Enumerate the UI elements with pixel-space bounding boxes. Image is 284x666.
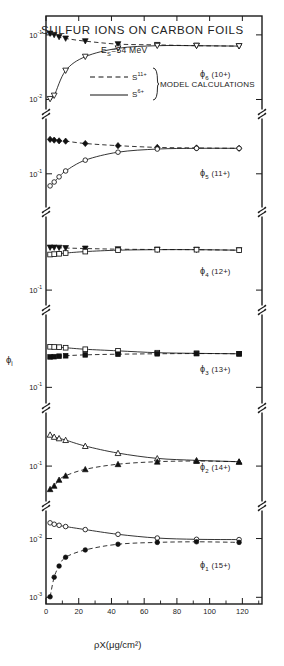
model-curve-solid (50, 523, 239, 540)
data-point (155, 540, 160, 545)
model-curve-solid (50, 435, 239, 462)
data-point (155, 247, 160, 252)
panel-label-index: 4 (205, 270, 209, 277)
data-point (194, 247, 199, 252)
data-point (57, 345, 62, 350)
data-point (237, 248, 242, 253)
data-point (83, 249, 88, 254)
panel-label-phi2: ϕ2 (14+) (200, 462, 231, 474)
data-point (83, 140, 88, 146)
panel-label-phi1: ϕ1 (15+) (200, 560, 231, 572)
y-axis-tick-label: 10-3 (29, 591, 42, 602)
x-axis-tick-label: 0 (44, 607, 48, 616)
data-point (47, 432, 53, 437)
data-point (83, 353, 88, 358)
model-curve-dashed (50, 139, 239, 148)
data-point (116, 352, 121, 357)
data-point (63, 251, 68, 256)
subtitle-energy-value: =54 MeV (111, 45, 147, 55)
y-axis-tick-label: 10-1 (29, 460, 42, 471)
model-curve-solid (50, 347, 239, 354)
data-point (155, 351, 160, 356)
legend-dashed-charge: 11+ (138, 71, 147, 77)
y-axis-label-subscript: i (11, 360, 12, 367)
x-axis-tick-label: 120 (236, 607, 249, 616)
data-point (82, 54, 88, 59)
panel-label-charge: (12+) (212, 267, 231, 276)
y-axis-tick-label: 10-1 (29, 284, 42, 295)
x-axis-tick-label: 40 (107, 607, 115, 616)
data-point (82, 466, 88, 471)
data-point (237, 351, 242, 356)
data-point (57, 251, 62, 256)
data-point (48, 184, 53, 189)
data-point (52, 354, 57, 359)
data-point (116, 248, 121, 253)
data-point (194, 351, 199, 356)
data-point (52, 575, 57, 580)
model-curve-dashed (50, 354, 239, 357)
data-point (63, 524, 68, 529)
data-point (52, 345, 57, 350)
y-axis-tick-label: 10-1 (29, 168, 42, 179)
data-point (56, 138, 61, 144)
panel-label-phi5: ϕ5 (11+) (200, 168, 230, 180)
data-point (48, 595, 53, 600)
panel-label-index: 1 (205, 564, 209, 571)
data-point (155, 147, 160, 152)
data-point (57, 523, 62, 528)
data-point (52, 522, 57, 527)
data-point (83, 548, 88, 553)
figure-panel: SULFUR IONS ON CARBON FOILS ES=54 MeV S1… (0, 0, 284, 666)
panel-label-charge: (15+) (212, 561, 231, 570)
data-point (63, 68, 69, 73)
data-point (83, 527, 88, 532)
panel-label-index: 6 (205, 74, 209, 81)
data-point (57, 175, 62, 180)
data-point (83, 347, 88, 352)
chart-title: SULFUR IONS ON CARBON FOILS (41, 24, 244, 36)
chart-subtitle: ES=54 MeV (101, 45, 148, 57)
legend-model-calculations-text: MODEL CALCULATIONS (160, 80, 255, 89)
data-point (116, 150, 121, 155)
data-point (155, 536, 160, 541)
x-axis-label: ρX(μg/cm²) (94, 639, 141, 650)
y-axis-tick-label: 10-2 (29, 533, 42, 544)
panel-label-phi4: ϕ4 (12+) (200, 266, 231, 278)
data-point (63, 353, 68, 358)
panel-label-charge: (10+) (212, 70, 231, 79)
y-axis-label: ϕi (6, 354, 13, 367)
panel-label-phi3: ϕ3 (13+) (200, 364, 231, 376)
panel-label-phi6: ϕ6 (10+) (200, 69, 231, 81)
model-curve-solid (50, 250, 239, 255)
panel-label-charge: (11+) (212, 169, 230, 178)
data-point (116, 542, 121, 547)
data-point (52, 180, 57, 185)
x-axis-tick-label: 100 (203, 607, 216, 616)
chart-canvas (0, 0, 284, 666)
data-point (237, 146, 242, 151)
panel-label-charge: (14+) (212, 463, 231, 472)
panel-label-charge: (13+) (212, 365, 231, 374)
data-point (237, 540, 242, 545)
data-point (63, 473, 69, 478)
data-point (194, 540, 199, 545)
data-point (63, 555, 68, 560)
y-axis-tick-label: 10-1 (29, 29, 42, 40)
data-point (115, 143, 120, 149)
x-axis-tick-label: 80 (173, 607, 181, 616)
data-point (116, 532, 121, 537)
x-axis-tick-label: 60 (140, 607, 148, 616)
x-axis-tick-label: 20 (75, 607, 83, 616)
legend-label-dashed: S11+ (132, 71, 147, 82)
data-point (194, 146, 199, 151)
data-point (52, 252, 57, 257)
figure-root: SULFUR IONS ON CARBON FOILS ES=54 MeV S1… (0, 0, 284, 666)
data-point (83, 158, 88, 163)
legend-label-solid: S6+ (132, 88, 144, 99)
data-point (63, 138, 68, 144)
data-point (63, 345, 68, 350)
data-point (51, 137, 56, 143)
panel-label-index: 2 (205, 466, 209, 473)
data-point (63, 169, 68, 174)
